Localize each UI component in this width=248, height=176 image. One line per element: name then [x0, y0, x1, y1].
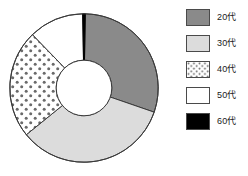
legend-item-20dai[interactable]: 20代 — [186, 7, 248, 27]
legend-item-30dai[interactable]: 30代 — [186, 33, 248, 53]
legend-swatch-60dai-fill — [187, 114, 209, 129]
donut-chart-plot-area — [6, 8, 162, 168]
donut-chart-figure: 20代 30代 40代 50代 — [0, 0, 248, 176]
donut-chart-svg — [6, 8, 162, 168]
legend-swatch-20dai — [186, 9, 210, 26]
legend-swatch-50dai — [186, 87, 210, 104]
legend-item-40dai[interactable]: 40代 — [186, 59, 248, 79]
legend-swatch-50dai-fill — [187, 88, 209, 103]
legend-item-50dai[interactable]: 50代 — [186, 85, 248, 105]
legend-swatch-20dai-fill — [187, 10, 209, 25]
legend-label-50dai: 50代 — [217, 91, 237, 100]
legend-label-30dai: 30代 — [217, 39, 237, 48]
legend-swatch-40dai-fill — [187, 62, 209, 77]
legend-item-60dai[interactable]: 60代 — [186, 111, 248, 131]
legend-swatch-40dai — [186, 61, 210, 78]
legend-label-40dai: 40代 — [217, 65, 237, 74]
legend-label-20dai: 20代 — [217, 13, 237, 22]
legend-swatch-60dai — [186, 113, 210, 130]
donut-slice-5[interactable] — [83, 14, 86, 60]
legend-label-60dai: 60代 — [217, 117, 237, 126]
legend: 20代 30代 40代 50代 — [186, 7, 248, 137]
legend-swatch-30dai-fill — [187, 36, 209, 51]
donut-inner-hole — [56, 60, 112, 116]
legend-swatch-30dai — [186, 35, 210, 52]
